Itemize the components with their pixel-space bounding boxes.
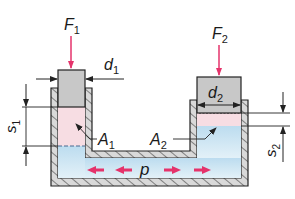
label-s2: s2 (262, 144, 282, 158)
label-a2: A2 (149, 131, 167, 151)
label-f2: F2 (212, 25, 228, 45)
label-a1: A1 (97, 131, 115, 151)
piston-small (58, 70, 85, 107)
displaced-volume-left (58, 107, 85, 146)
label-pressure: p (139, 160, 149, 179)
label-d1: d1 (104, 56, 119, 76)
label-s1: s1 (2, 120, 22, 134)
displaced-volume-right (197, 113, 241, 126)
hydraulic-press-diagram: F1 F2 d1 d2 s1 s2 A1 A2 p (0, 0, 295, 199)
label-f1: F1 (64, 16, 80, 36)
